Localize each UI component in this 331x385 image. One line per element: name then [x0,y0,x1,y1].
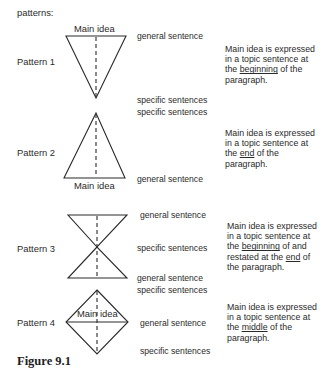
emphasis-beginning: beginning [242,241,280,251]
pattern-1-description: Main idea is expressed in a topic senten… [225,44,315,85]
pattern-4-main-idea-label: Main idea [77,309,118,319]
pattern-3-hourglass [68,215,127,278]
patterns-heading: patterns: [17,8,53,18]
pattern-1-general-sentence: general sentence [137,31,203,41]
pattern-4-label: Pattern 4 [17,318,55,328]
pattern-2-label: Pattern 2 [17,148,55,158]
pattern-3-specific-sentences-1: specific sentences [137,243,207,253]
pattern-3-general-sentence-1: general sentence [140,210,206,220]
emphasis-beginning: beginning [240,64,278,74]
emphasis-end: end [286,252,301,262]
pattern-2-main-idea-label: Main idea [74,181,115,191]
pattern-4-diamond [66,290,128,354]
pattern-3-label: Pattern 3 [17,244,55,254]
emphasis-middle: middle [242,322,268,332]
pattern-1-specific-sentences-2: specific sentences [137,107,207,117]
pattern-1-inverted-triangle [66,36,126,98]
pattern-1-label: Pattern 1 [17,57,55,67]
emphasis-end: end [240,148,255,158]
pattern-4-description: Main idea is expressed in a topic senten… [227,302,317,343]
figure-caption: Figure 9.1 [17,354,71,369]
pattern-2-triangle [64,113,125,178]
pattern-2-general-sentence: general sentence [137,174,203,184]
pattern-3-description: Main idea is expressed in a topic senten… [227,221,317,272]
pattern-4-specific-sentences: specific sentences [140,346,210,356]
pattern-4-general-sentence: general sentence [140,318,206,328]
pattern-1-main-idea-label: Main idea [74,24,115,34]
pattern-3-specific-sentences-2: specific sentences [137,285,207,295]
pattern-2-description: Main idea is expressed in a topic senten… [225,128,315,169]
pattern-1-specific-sentences-1: specific sentences [137,95,207,105]
pattern-3-general-sentence-2: general sentence [137,273,203,283]
